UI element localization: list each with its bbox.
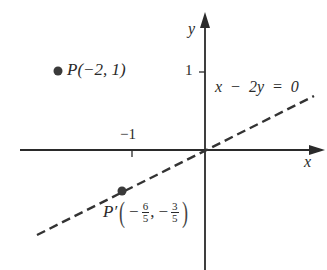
x-numerator: 6: [142, 201, 150, 213]
y-sign: −: [158, 202, 168, 222]
y-tick-label: 1: [185, 62, 193, 79]
point-p-text: P(−2, 1): [67, 60, 126, 79]
y-fraction: 3 5: [171, 201, 179, 224]
left-paren: (: [119, 197, 125, 227]
y-axis-arrow-icon: [200, 12, 210, 28]
point-p: [54, 67, 63, 76]
x-sign: −: [129, 202, 139, 222]
x-axis-label: x: [304, 153, 311, 171]
y-numerator: 3: [171, 201, 179, 213]
point-p-prime-name: P′: [103, 202, 117, 222]
point-p-prime-label: P′ ( − 6 5 , − 3 5 ): [103, 197, 190, 227]
y-axis-label: y: [188, 20, 195, 38]
x-tick-label: −1: [120, 126, 136, 143]
x-axis-arrow-icon: [309, 145, 325, 155]
x-fraction: 6 5: [142, 201, 150, 224]
y-denominator: 5: [172, 213, 178, 224]
coordinate-plane: [0, 0, 327, 270]
x-denominator: 5: [143, 213, 149, 224]
point-p-label: P(−2, 1): [67, 60, 126, 80]
comma: ,: [150, 202, 154, 222]
right-paren: ): [182, 197, 188, 227]
line-equation-label: x − 2y = 0: [215, 78, 299, 96]
